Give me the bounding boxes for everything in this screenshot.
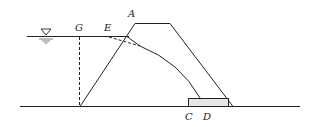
label-g: G: [75, 22, 83, 33]
e-dashed-line: [109, 37, 140, 46]
label-a: A: [127, 8, 135, 19]
label-e: E: [103, 22, 112, 33]
dam-seepage-diagram: A G E C D: [0, 0, 317, 127]
label-c: C: [185, 111, 193, 122]
drain-block: [189, 99, 229, 107]
dam-outline: [80, 24, 233, 107]
label-d: D: [202, 111, 211, 122]
